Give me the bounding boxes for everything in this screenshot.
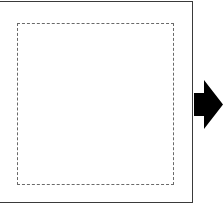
arrow-right-icon: [194, 80, 223, 129]
inner-dashed-region: [17, 23, 174, 185]
